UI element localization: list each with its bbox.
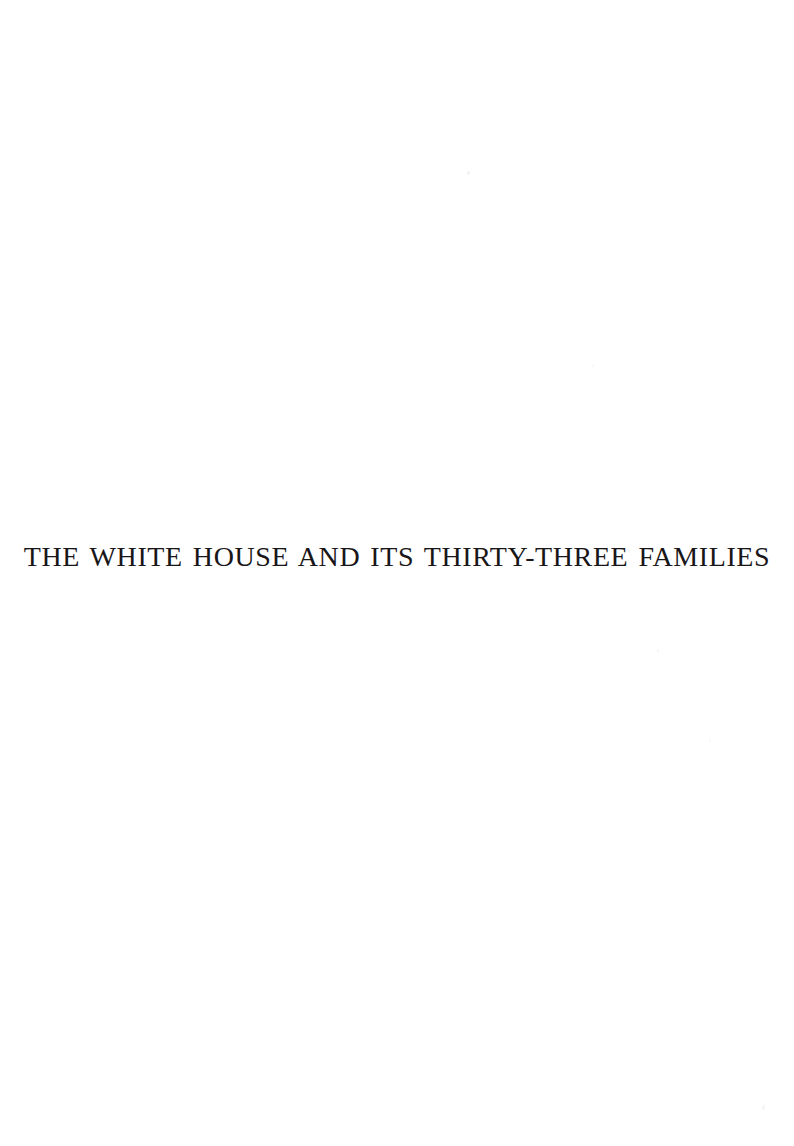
half-title-block: THE WHITE HOUSE AND ITS THIRTY-THREE FAM… bbox=[0, 540, 794, 574]
scan-speck-icon bbox=[657, 649, 659, 652]
page-title: THE WHITE HOUSE AND ITS THIRTY-THREE FAM… bbox=[24, 540, 770, 574]
scan-speck-icon bbox=[709, 739, 711, 742]
scan-speck-icon bbox=[467, 171, 470, 175]
scan-speck-icon bbox=[762, 1105, 765, 1110]
scanned-page: THE WHITE HOUSE AND ITS THIRTY-THREE FAM… bbox=[0, 0, 794, 1146]
scan-speck-icon bbox=[592, 364, 594, 367]
